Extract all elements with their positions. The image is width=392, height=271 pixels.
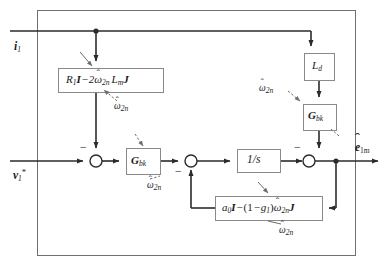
integrator-block-label: 1/s — [247, 154, 260, 166]
leader-feedback-omega — [268, 221, 281, 224]
output-label-e1m: ˆe1m — [355, 138, 370, 155]
feedback-gain-block-label: a0I − (1 − g1)ˆω2nJ — [222, 202, 295, 215]
block-diagram-canvas: i1 v1* ˆe1m R1I − 2ˆω2nLmJ Gbk 1/s Ld Gb… — [0, 0, 392, 271]
leader-gbk-main — [135, 134, 143, 146]
omega-annotation-gbk-right: ˆω2n — [259, 83, 273, 95]
summing-junction-left — [90, 155, 102, 167]
omega-annotation-r1-block: ˆω2n — [114, 101, 128, 113]
r1-block-label: R1I − 2ˆω2nLmJ — [66, 74, 129, 87]
diagram-vector-layer — [0, 0, 392, 271]
ld-block-label: Ld — [312, 60, 322, 73]
sum2-minus-sign: − — [175, 164, 182, 179]
input-label-v1-ref: v1* — [13, 166, 26, 183]
leader-r1-top — [80, 52, 92, 66]
input-label-i1: i1 — [14, 37, 21, 54]
sum1-minus-sign: − — [80, 140, 87, 155]
summing-junction-right — [303, 155, 315, 167]
omega-annotation-gbk-main: ˆω2n — [147, 180, 161, 192]
leader-feedback-top — [258, 182, 268, 193]
gbk-main-block-label: Gbk — [131, 155, 146, 168]
summing-junction-middle — [185, 155, 197, 167]
sum3-minus-sign: − — [294, 140, 301, 155]
leader-gbk-right — [288, 91, 300, 101]
gbk-right-block-label: Gbk — [308, 110, 323, 123]
omega-annotation-feedback: ˆω2n — [279, 225, 293, 237]
